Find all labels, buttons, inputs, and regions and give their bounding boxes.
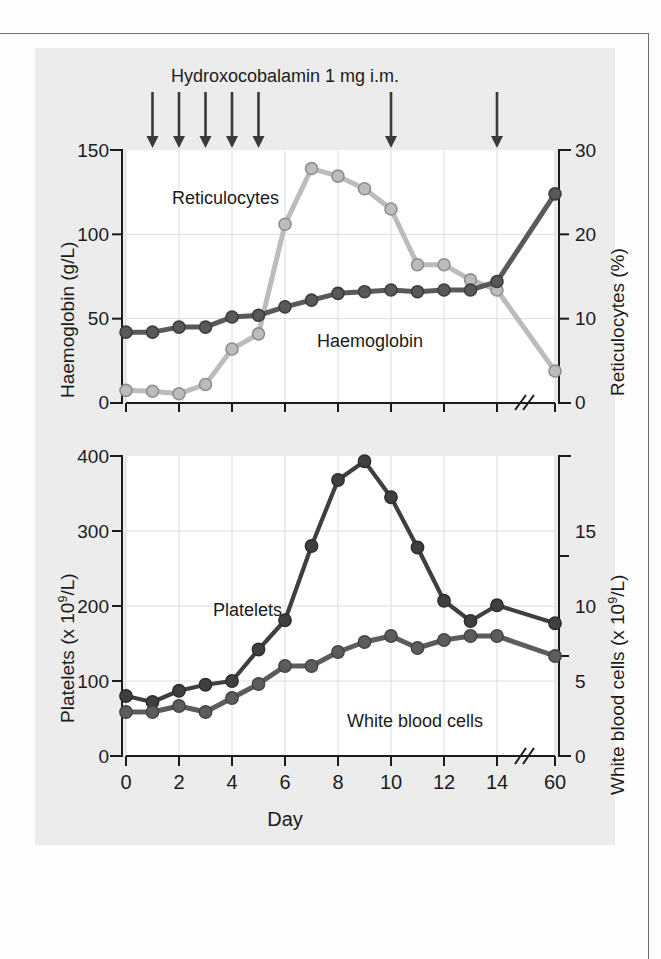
x-axis-title: Day (0, 808, 575, 831)
top-y2tick-0: 0 (575, 393, 586, 412)
bottom-series-group (120, 455, 561, 718)
top-chart: Hydroxocobalamin 1 mg i.m. 150 100 50 0 … (35, 48, 615, 423)
bottom-chart: 400 300 200 100 0 15 10 5 0 Platelets (x… (35, 423, 615, 845)
figure-page: Hydroxocobalamin 1 mg i.m. 150 100 50 0 … (0, 0, 661, 959)
reticulocytes-series-label: Reticulocytes (172, 188, 279, 209)
bot-y2tick-5: 5 (575, 672, 586, 691)
x-tick-6: 6 (279, 772, 290, 792)
bot-ytick-0: 0 (45, 747, 109, 766)
bottom-y-title-pre: Platelets (x 10 (57, 603, 78, 723)
bottom-y2-axis-title: White blood cells (x 109/L) (607, 575, 629, 795)
bot-ytick-300: 300 (45, 522, 109, 541)
x-tick-14: 14 (486, 772, 508, 792)
haemoglobin-series-label: Haemoglobin (317, 331, 423, 352)
bot-y2tick-15: 15 (575, 522, 596, 541)
bottom-y2-title-sup: 9 (606, 597, 620, 604)
bottom-y2-title-pre: White blood cells (x 10 (607, 604, 628, 795)
bot-ytick-400: 400 (45, 447, 109, 466)
bot-y2tick-0: 0 (575, 747, 586, 766)
x-tick-60: 60 (544, 772, 566, 792)
wbc-series-label: White blood cells (347, 711, 483, 732)
x-tick-4: 4 (226, 772, 237, 792)
x-tick-8: 8 (332, 772, 343, 792)
top-chart-svg (35, 48, 615, 423)
x-tick-2: 2 (173, 772, 184, 792)
bottom-y-axis-title: Platelets (x 109/L) (57, 573, 79, 723)
x-tick-0: 0 (120, 772, 131, 792)
x-tick-10: 10 (380, 772, 402, 792)
bottom-y-title-sup: 9 (56, 596, 70, 603)
top-y2tick-30: 30 (575, 141, 596, 160)
top-y-axis-title: Haemoglobin (g/L) (57, 242, 79, 398)
top-y2tick-20: 20 (575, 225, 596, 244)
x-tick-12: 12 (433, 772, 455, 792)
top-y2tick-10: 10 (575, 309, 596, 328)
bottom-y2-title-post: /L) (607, 575, 628, 597)
figure-panel: Hydroxocobalamin 1 mg i.m. 150 100 50 0 … (35, 48, 615, 845)
bottom-y-title-post: /L) (57, 573, 78, 595)
top-horizontal-rule (0, 33, 648, 34)
dose-arrow-group (147, 92, 504, 148)
top-ytick-150: 150 (61, 141, 109, 160)
bot-y2tick-10: 10 (575, 597, 596, 616)
top-y2-axis-title: Reticulocytes (%) (607, 248, 629, 396)
platelets-series-label: Platelets (213, 600, 282, 621)
right-vertical-rule (648, 33, 649, 959)
